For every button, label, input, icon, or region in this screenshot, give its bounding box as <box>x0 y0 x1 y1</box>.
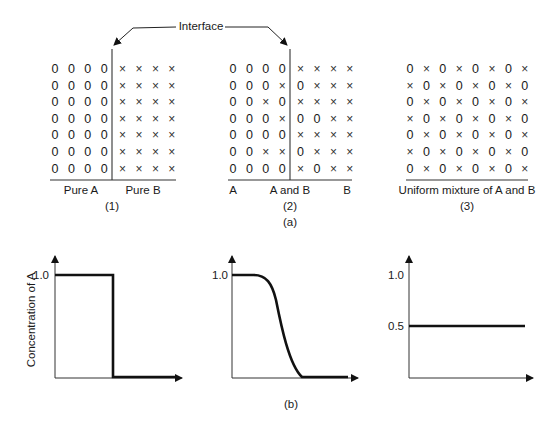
panel-2-label-b: B <box>343 184 351 197</box>
particle-a: 0 <box>259 62 273 76</box>
particle-b: × <box>148 95 162 109</box>
particle-b: × <box>116 162 130 176</box>
particle-a: 0 <box>501 95 515 109</box>
particle-b: × <box>294 162 308 176</box>
particle-a: 0 <box>294 112 308 126</box>
particle-a: 0 <box>469 162 483 176</box>
particle-b: × <box>275 145 289 159</box>
particle-a: 0 <box>48 112 62 126</box>
panel-1-label-pure-b: Pure B <box>125 184 160 197</box>
particle-a: 0 <box>64 79 78 93</box>
particle-b: × <box>148 62 162 76</box>
particle-b: × <box>132 62 146 76</box>
particle-b: × <box>148 145 162 159</box>
interface-label: Interface <box>179 20 224 33</box>
particle-b: × <box>501 145 515 159</box>
particle-b: × <box>165 128 179 142</box>
particle-a: 0 <box>469 128 483 142</box>
particle-a: 0 <box>259 162 273 176</box>
particle-b: × <box>343 145 357 159</box>
particle-a: 0 <box>81 62 95 76</box>
particle-a: 0 <box>48 128 62 142</box>
particle-a: 0 <box>310 162 324 176</box>
particle-b: × <box>132 112 146 126</box>
particle-a: 0 <box>294 145 308 159</box>
particle-a: 0 <box>81 95 95 109</box>
particle-b: × <box>436 145 450 159</box>
particle-a: 0 <box>64 128 78 142</box>
particle-a: 0 <box>485 145 499 159</box>
part-a-caption: (a) <box>283 216 297 229</box>
particle-b: × <box>165 79 179 93</box>
panel-3-caption: (3) <box>460 200 474 213</box>
particle-a: 0 <box>275 128 289 142</box>
particle-b: × <box>403 79 417 93</box>
particle-a: 0 <box>403 95 417 109</box>
particle-b: × <box>116 95 130 109</box>
particle-b: × <box>310 62 324 76</box>
interface-pointer-right <box>225 27 287 45</box>
chart-2-curve <box>232 275 348 377</box>
particle-a: 0 <box>64 95 78 109</box>
particle-a: 0 <box>226 128 240 142</box>
chart-3-axes <box>409 256 533 378</box>
particle-b: × <box>419 128 433 142</box>
particle-b: × <box>148 79 162 93</box>
interface-pointer-left <box>114 27 176 45</box>
particle-b: × <box>452 128 466 142</box>
particle-b: × <box>343 62 357 76</box>
particle-b: × <box>326 62 340 76</box>
particle-a: 0 <box>485 79 499 93</box>
particle-b: × <box>116 128 130 142</box>
chart-3-ytick-1: 1.0 <box>375 269 404 282</box>
particle-b: × <box>452 162 466 176</box>
particle-b: × <box>419 62 433 76</box>
particle-a: 0 <box>403 128 417 142</box>
particle-b: × <box>165 95 179 109</box>
particle-a: 0 <box>242 95 256 109</box>
particle-a: 0 <box>226 112 240 126</box>
particle-b: × <box>294 62 308 76</box>
particle-a: 0 <box>226 79 240 93</box>
particle-b: × <box>259 95 273 109</box>
particle-a: 0 <box>275 162 289 176</box>
particle-a: 0 <box>81 112 95 126</box>
particle-b: × <box>518 62 532 76</box>
particle-a: 0 <box>242 145 256 159</box>
panel-2-caption: (2) <box>283 200 297 213</box>
particle-a: 0 <box>518 79 532 93</box>
particle-a: 0 <box>48 145 62 159</box>
particle-a: 0 <box>403 162 417 176</box>
particle-b: × <box>165 162 179 176</box>
particle-a: 0 <box>310 112 324 126</box>
particle-b: × <box>326 145 340 159</box>
particle-a: 0 <box>501 162 515 176</box>
particle-b: × <box>310 79 324 93</box>
particle-a: 0 <box>242 112 256 126</box>
particle-a: 0 <box>275 95 289 109</box>
particle-b: × <box>452 62 466 76</box>
panel-1-label-pure-a: Pure A <box>64 184 99 197</box>
panel-2-label-a-and-b: A and B <box>270 184 310 197</box>
particle-b: × <box>326 79 340 93</box>
particle-b: × <box>343 79 357 93</box>
particle-a: 0 <box>48 79 62 93</box>
particle-a: 0 <box>226 162 240 176</box>
particle-a: 0 <box>501 128 515 142</box>
particle-a: 0 <box>226 145 240 159</box>
chart-1-curve <box>55 275 175 377</box>
particle-b: × <box>132 95 146 109</box>
particle-a: 0 <box>48 95 62 109</box>
particle-b: × <box>294 128 308 142</box>
particle-b: × <box>403 145 417 159</box>
particle-a: 0 <box>436 95 450 109</box>
particle-b: × <box>419 162 433 176</box>
particle-a: 0 <box>259 128 273 142</box>
particle-a: 0 <box>242 79 256 93</box>
particle-b: × <box>436 79 450 93</box>
particle-a: 0 <box>97 112 111 126</box>
particle-b: × <box>148 112 162 126</box>
particle-b: × <box>469 112 483 126</box>
particle-a: 0 <box>452 79 466 93</box>
particle-b: × <box>326 95 340 109</box>
